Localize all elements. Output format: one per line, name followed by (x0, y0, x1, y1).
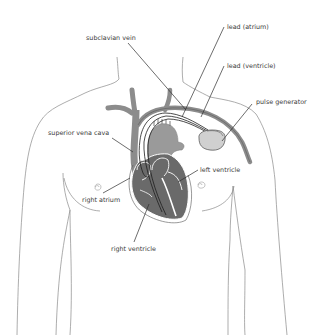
leader-right-ventricle (134, 204, 149, 242)
label-pulse-generator: pulse generator (256, 98, 307, 106)
right-nipple-icon (198, 182, 205, 188)
pacemaker-diagram: lead (atrium) subclavian vein lead (vent… (0, 0, 323, 336)
leader-lead-atrium (182, 27, 224, 117)
label-right-atrium: right atrium (82, 196, 120, 204)
label-left-ventricle: left ventricle (200, 166, 240, 174)
label-lead-atrium: lead (atrium) (227, 23, 269, 31)
heart (129, 154, 192, 223)
leader-right-atrium (103, 178, 130, 193)
label-subclavian-vein: subclavian vein (86, 34, 136, 42)
leader-superior-vena-cava (112, 138, 133, 152)
left-nipple-icon (95, 184, 101, 190)
label-superior-vena-cava: superior vena cava (48, 129, 109, 137)
leader-lead-ventricle (201, 66, 224, 117)
label-lead-ventricle: lead (ventricle) (227, 62, 276, 70)
label-right-ventricle: right ventricle (111, 245, 156, 253)
leader-subclavian-vein (128, 43, 186, 110)
pulse-generator (199, 130, 225, 150)
